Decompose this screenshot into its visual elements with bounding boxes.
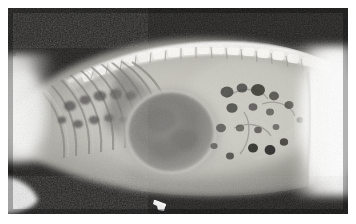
radiograph-film: FILM EDGE MARKING	[8, 8, 348, 214]
radiograph-canvas	[8, 8, 348, 214]
radiograph-viewer: FILM EDGE MARKING Lateral abdominal radi…	[0, 0, 356, 224]
